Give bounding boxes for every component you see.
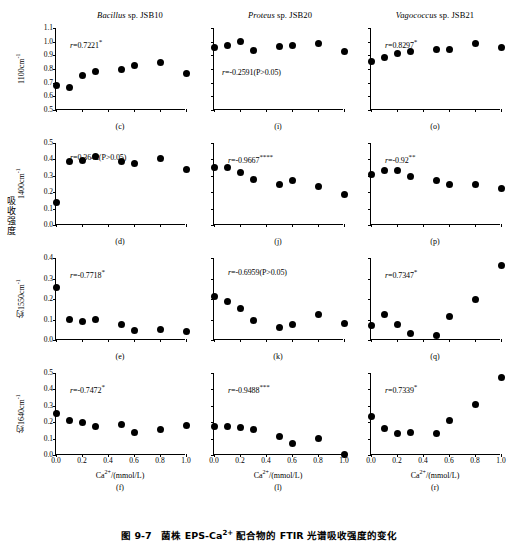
y-tick-label: 0.9	[44, 52, 53, 60]
data-point	[341, 48, 348, 55]
data-point	[211, 293, 218, 300]
panel-letter: (j)	[213, 237, 343, 246]
plot-area: 0.00.10.20.30.40.50.00.20.40.60.81.0r=-0…	[55, 373, 185, 455]
y-tick-mark	[53, 373, 56, 374]
data-point	[472, 181, 479, 188]
y-tick-mark	[211, 55, 214, 56]
y-tick-mark	[211, 28, 214, 29]
data-point	[315, 40, 322, 47]
x-tick-mark	[56, 339, 57, 342]
y-tick-label: 0.3	[44, 275, 53, 283]
y-tick-mark	[53, 69, 56, 70]
plot-area: 0.50.60.70.80.91.01.1r=0.7221*	[55, 28, 185, 110]
data-point	[394, 430, 401, 437]
y-tick-label: 1.0	[44, 38, 53, 46]
x-tick-label: 0.6	[444, 457, 453, 465]
data-point	[118, 421, 125, 428]
y-tick-mark	[368, 28, 371, 29]
plot-area: 0.00.20.40.60.81.0r=0.7339*	[370, 373, 500, 455]
plot-panel-r: 0.00.20.40.60.81.0r=0.7339*(r)Ca2+/(mmol…	[370, 373, 500, 455]
y-tick-label: 0.1	[44, 435, 53, 443]
x-tick-mark	[292, 339, 293, 342]
data-point	[183, 70, 190, 77]
data-point	[224, 423, 231, 430]
data-point	[381, 54, 388, 61]
y-axis-label: 1100cm-1	[15, 28, 26, 110]
data-point	[79, 318, 86, 325]
data-point	[131, 62, 138, 69]
data-point	[250, 426, 257, 433]
x-tick-mark	[449, 224, 450, 227]
correlation-annotation: r=0.3642(P>0.05)	[70, 153, 126, 162]
data-point	[237, 305, 244, 312]
y-tick-mark	[368, 209, 371, 210]
data-point	[224, 298, 231, 305]
data-point	[341, 191, 348, 198]
y-tick-mark	[368, 320, 371, 321]
plot-area: 0.00.20.40.60.81.0r=-0.9488***	[213, 373, 343, 455]
x-tick-mark	[423, 339, 424, 342]
x-tick-mark	[397, 339, 398, 342]
panel-letter: (d)	[55, 237, 185, 246]
y-tick-mark	[368, 159, 371, 160]
data-point	[118, 66, 125, 73]
y-tick-mark	[368, 192, 371, 193]
correlation-annotation: r=0.8297*	[385, 38, 417, 50]
y-tick-mark	[53, 258, 56, 259]
plot-panel-j: r=-0.9667****(j)	[213, 143, 343, 225]
x-tick-label: 0.8	[155, 457, 164, 465]
data-point	[289, 321, 296, 328]
data-point	[118, 321, 125, 328]
y-tick-label: 0.5	[44, 106, 53, 114]
correlation-annotation: r=0.7339*	[385, 383, 417, 395]
data-point	[289, 440, 296, 447]
data-point	[394, 321, 401, 328]
y-tick-mark	[53, 279, 56, 280]
plot-panel-o: r=0.8297*(o)	[370, 28, 500, 110]
data-point	[237, 38, 244, 45]
data-point	[498, 262, 505, 269]
x-tick-mark	[475, 109, 476, 112]
y-tick-mark	[368, 389, 371, 390]
data-point	[131, 160, 138, 167]
y-tick-mark	[211, 406, 214, 407]
plot-panel-i: r=-0.2591(P>0.05)(i)	[213, 28, 343, 110]
y-tick-mark	[211, 83, 214, 84]
data-point	[446, 46, 453, 53]
data-point	[224, 164, 231, 171]
data-point	[79, 419, 86, 426]
x-tick-mark	[160, 339, 161, 342]
y-tick-label: 0.2	[44, 295, 53, 303]
y-tick-mark	[368, 69, 371, 70]
x-tick-mark	[108, 339, 109, 342]
x-tick-label: 0.4	[418, 457, 427, 465]
data-point	[394, 50, 401, 57]
data-point	[498, 374, 505, 381]
correlation-annotation: r=-0.9488***	[228, 383, 270, 395]
x-tick-mark	[240, 224, 241, 227]
y-tick-label: 0.0	[44, 221, 53, 229]
x-tick-mark	[344, 339, 345, 342]
y-tick-mark	[53, 389, 56, 390]
y-tick-mark	[211, 373, 214, 374]
y-tick-label: 0.4	[44, 254, 53, 262]
data-point	[53, 410, 60, 417]
data-point	[250, 176, 257, 183]
data-point	[92, 316, 99, 323]
x-tick-mark	[160, 109, 161, 112]
y-tick-mark	[53, 299, 56, 300]
data-point	[66, 417, 73, 424]
panel-letter: (c)	[55, 122, 185, 131]
plot-panel-d: 0.00.10.20.30.40.5r=0.3642(P>0.05)1400cm…	[55, 143, 185, 225]
x-tick-mark	[266, 224, 267, 227]
y-tick-mark	[211, 439, 214, 440]
panel-letter: (o)	[370, 122, 500, 131]
y-tick-mark	[53, 28, 56, 29]
x-tick-mark	[449, 339, 450, 342]
y-tick-mark	[53, 176, 56, 177]
y-axis-label: 1400cm-1	[15, 143, 26, 225]
correlation-annotation: r=-0.6959(P>0.05)	[228, 268, 287, 277]
y-tick-label: 0.7	[44, 79, 53, 87]
x-tick-label: 0.8	[313, 457, 322, 465]
y-tick-mark	[211, 209, 214, 210]
